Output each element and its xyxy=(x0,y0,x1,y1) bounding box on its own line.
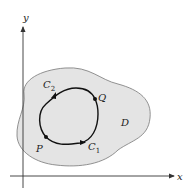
x-axis-label: x xyxy=(177,171,183,182)
y-axis-label: y xyxy=(22,12,29,23)
line-integral-diagram: y x D P Q C2 C1 xyxy=(0,0,188,192)
region-label: D xyxy=(120,117,129,128)
point-p xyxy=(44,135,48,139)
point-q xyxy=(93,97,97,101)
point-q-label: Q xyxy=(98,92,106,103)
point-p-label: P xyxy=(35,143,43,154)
